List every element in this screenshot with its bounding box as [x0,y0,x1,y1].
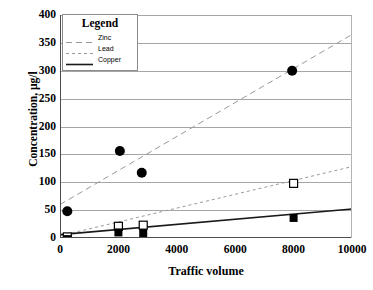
y-tick-label: 400 [14,9,56,21]
x-tick-label: 0 [57,243,63,255]
legend-item-zinc[interactable]: Zinc [66,32,137,43]
legend-label: Copper [98,56,121,63]
legend-label: Lead [98,45,114,52]
data-point-copper [139,229,147,237]
data-point-zinc [287,66,297,76]
legend-swatch-copper [66,55,93,64]
x-axis-label: Traffic volume [60,264,352,279]
data-point-copper [290,214,298,222]
legend-swatch-lead [66,44,93,53]
x-tick-label: 8000 [282,243,305,255]
y-tick-label: 350 [14,37,56,49]
legend-title: Legend [63,17,137,30]
trend-line-copper [60,209,352,235]
data-markers [62,66,297,238]
legend-entries: ZincLeadCopper [63,32,137,65]
data-point-lead [139,221,147,229]
trend-line-lead [60,167,352,236]
y-tick-label: 300 [14,65,56,77]
y-tick-label: 200 [14,121,56,133]
x-tick-label: 6000 [224,243,247,255]
legend-label: Zinc [98,34,111,41]
data-point-zinc [115,146,125,156]
data-point-lead [290,179,298,187]
data-point-zinc [62,206,72,216]
y-tick-label: 250 [14,93,56,105]
y-tick-label: 0 [14,232,56,244]
x-axis-tick-labels: 0200040006000800010000 [0,243,373,259]
x-tick-label: 10000 [338,243,367,255]
chart-figure: Concentration, µg/l 05010015020025030035… [0,0,373,290]
legend-swatch-zinc [66,33,93,42]
x-tick-label: 2000 [107,243,130,255]
data-point-zinc [137,168,147,178]
data-point-copper [114,228,122,236]
x-tick-label: 4000 [165,243,188,255]
y-tick-label: 100 [14,176,56,188]
y-tick-label: 150 [14,148,56,160]
legend-item-lead[interactable]: Lead [66,43,137,54]
legend-box: Legend ZincLeadCopper [62,14,138,71]
legend-item-copper[interactable]: Copper [66,54,137,65]
y-tick-label: 50 [14,204,56,216]
